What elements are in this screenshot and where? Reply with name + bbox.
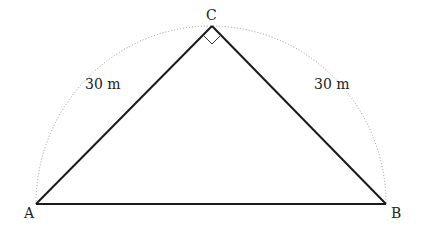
dotted-semicircle-arc xyxy=(36,26,386,204)
triangle-figure xyxy=(0,0,423,227)
side-label-cb: 30 m xyxy=(314,77,350,91)
vertex-label-b: B xyxy=(391,206,401,220)
side-cb xyxy=(212,26,386,204)
side-label-ac: 30 m xyxy=(85,77,121,91)
diagram-canvas: C A B 30 m 30 m xyxy=(0,0,423,227)
right-angle-marker xyxy=(203,35,221,44)
side-ac xyxy=(36,26,212,204)
vertex-label-c: C xyxy=(206,8,217,22)
vertex-label-a: A xyxy=(24,206,34,220)
